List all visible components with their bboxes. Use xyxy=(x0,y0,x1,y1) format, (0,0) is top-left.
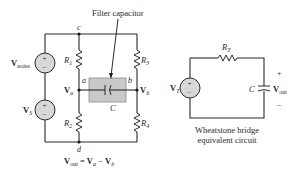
va-label: Va xyxy=(64,85,73,96)
svg-text:−: − xyxy=(43,111,47,119)
signal-source: + − xyxy=(35,100,55,120)
node-d-label: d xyxy=(77,145,82,154)
v-noise-label: Vnoise xyxy=(11,58,30,69)
eq-capacitor-plate-bottom xyxy=(258,90,270,92)
vout-label: Vout xyxy=(273,84,287,95)
node-c-dot xyxy=(77,32,80,35)
r3-label: R3 xyxy=(140,55,149,66)
rt-label: RT xyxy=(221,42,231,53)
eq-top-wire-right xyxy=(237,58,264,86)
filter-capacitor-pointer xyxy=(111,19,118,76)
node-b-label: b xyxy=(128,76,132,85)
r3-resistor xyxy=(134,50,140,69)
r4-label: R4 xyxy=(140,118,149,129)
v-s-label: VS xyxy=(23,105,32,116)
vb-label: Vb xyxy=(140,85,149,96)
circuit-figure: Filter capacitor + − + − c a b d C Vnois… xyxy=(0,0,302,175)
svg-text:+: + xyxy=(188,80,192,88)
r1-label: R1 xyxy=(63,55,72,66)
capacitor-label: C xyxy=(110,103,116,113)
node-a-label: a xyxy=(82,76,86,85)
vt-label: VT xyxy=(170,83,180,94)
r1-resistor xyxy=(76,50,82,69)
rt-resistor xyxy=(218,55,237,61)
svg-text:+: + xyxy=(43,102,47,110)
eq-bottom-left xyxy=(190,91,264,118)
node-b-dot xyxy=(135,88,138,91)
vout-plus: + xyxy=(277,69,282,78)
r4-resistor xyxy=(134,113,140,132)
thevenin-source: + − xyxy=(180,78,200,98)
vout-minus: − xyxy=(277,101,282,110)
noise-source: + − xyxy=(35,53,55,73)
eq-capacitor-label: C xyxy=(249,84,255,94)
equivalent-circuit: + − VT RT C Vout + − Wheatstone bridge e… xyxy=(170,42,287,145)
svg-text:+: + xyxy=(43,55,47,63)
r2-label: R2 xyxy=(63,118,72,129)
caption-line-1: Wheatstone bridge xyxy=(195,125,259,135)
node-d-dot xyxy=(77,140,80,143)
svg-text:−: − xyxy=(43,64,47,72)
bridge-circuit: Filter capacitor + − + − c a b d C Vnois… xyxy=(11,8,149,167)
svg-text:−: − xyxy=(188,89,192,97)
vout-equation: Vout = Va − Vb xyxy=(64,156,114,167)
r2-resistor xyxy=(76,113,82,132)
node-a-dot xyxy=(77,88,80,91)
filter-capacitor-label: Filter capacitor xyxy=(92,8,144,18)
caption-line-2: equivalent circuit xyxy=(197,135,257,145)
node-c-label: c xyxy=(77,23,81,32)
